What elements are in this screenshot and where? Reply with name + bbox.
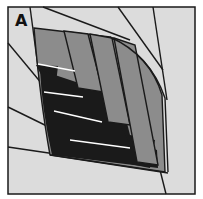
diagram-svg bbox=[0, 0, 203, 199]
panel-label: A bbox=[15, 13, 27, 29]
